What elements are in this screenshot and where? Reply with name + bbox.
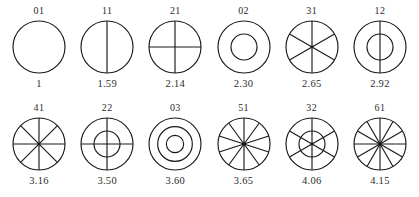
- circle-glyph-32-drawing: [282, 114, 342, 174]
- centre-hub: [310, 143, 313, 146]
- circle-glyph-02-value: 2.30: [234, 78, 254, 91]
- circle-glyph-61: 61 4.15: [349, 102, 411, 188]
- circle-glyph-41: 41 3.16: [8, 102, 70, 188]
- ring-1: [149, 118, 201, 170]
- circle-glyph-11-code: 11: [102, 5, 112, 17]
- circle-glyph-61-drawing: [350, 114, 410, 174]
- circle-glyph-02-wrap: [214, 17, 274, 77]
- circle-glyph-32: 32 4.06: [281, 102, 343, 188]
- circle-glyph-02: 02 2.30: [213, 5, 275, 91]
- circle-glyph-21-value: 2.14: [166, 78, 186, 91]
- circle-glyph-01-code: 01: [34, 5, 45, 17]
- circle-glyph-21: 21 2.14: [144, 5, 206, 91]
- circle-glyph-03: 03 3.60: [144, 102, 206, 188]
- ring-2: [158, 127, 193, 162]
- circle-glyph-11-drawing: [77, 17, 137, 77]
- circle-glyph-41-drawing: [9, 114, 69, 174]
- circle-glyph-22-code: 22: [102, 102, 113, 114]
- circle-glyph-32-value: 4.06: [302, 175, 322, 188]
- circle-glyph-02-code: 02: [238, 5, 249, 17]
- circle-glyph-03-drawing: [145, 114, 205, 174]
- circle-glyph-11-value: 1.59: [97, 78, 117, 91]
- circle-glyph-22-drawing: [77, 114, 137, 174]
- glyph-row-bottom: 41 3.16 22 3.50 03 3.60 51 3.65 32 4.06 …: [0, 98, 419, 196]
- centre-hub: [378, 142, 382, 146]
- circle-glyph-02-drawing: [214, 17, 274, 77]
- ring-1: [218, 21, 270, 73]
- circle-glyph-22-value: 3.50: [97, 175, 117, 188]
- circle-glyph-12-wrap: [350, 17, 410, 77]
- circle-glyph-01: 01 1: [8, 5, 70, 91]
- circle-glyph-51-code: 51: [238, 102, 249, 114]
- circle-complexity-figure: 01 1 11 1.59 21 2.14 02 2.30 31 2.65 12 …: [0, 0, 419, 197]
- circle-glyph-61-value: 4.15: [370, 175, 390, 188]
- centre-hub: [242, 142, 246, 146]
- circle-glyph-61-wrap: [350, 114, 410, 174]
- centre-hub: [38, 143, 41, 146]
- circle-glyph-03-wrap: [145, 114, 205, 174]
- circle-glyph-21-code: 21: [170, 5, 181, 17]
- circle-glyph-32-wrap: [282, 114, 342, 174]
- circle-glyph-01-wrap: [9, 17, 69, 77]
- circle-glyph-51-value: 3.65: [234, 175, 254, 188]
- circle-glyph-21-wrap: [145, 17, 205, 77]
- circle-glyph-03-value: 3.60: [166, 175, 186, 188]
- circle-glyph-31-wrap: [282, 17, 342, 77]
- circle-glyph-03-code: 03: [170, 102, 181, 114]
- circle-glyph-22: 22 3.50: [76, 102, 138, 188]
- circle-glyph-21-drawing: [145, 17, 205, 77]
- circle-glyph-01-drawing: [9, 17, 69, 77]
- ring-3: [167, 135, 184, 152]
- glyph-row-top: 01 1 11 1.59 21 2.14 02 2.30 31 2.65 12 …: [0, 0, 419, 98]
- circle-glyph-11: 11 1.59: [76, 5, 138, 91]
- circle-glyph-01-value: 1: [36, 78, 42, 91]
- circle-glyph-31-code: 31: [306, 5, 317, 17]
- circle-glyph-51-wrap: [214, 114, 274, 174]
- centre-hub: [310, 46, 313, 49]
- circle-glyph-41-code: 41: [34, 102, 45, 114]
- circle-glyph-12-drawing: [350, 17, 410, 77]
- circle-glyph-22-wrap: [77, 114, 137, 174]
- circle-glyph-12-value: 2.92: [370, 78, 390, 91]
- ring-1: [13, 21, 65, 73]
- circle-glyph-61-code: 61: [375, 102, 386, 114]
- circle-glyph-11-wrap: [77, 17, 137, 77]
- circle-glyph-31: 31 2.65: [281, 5, 343, 91]
- circle-glyph-32-code: 32: [306, 102, 317, 114]
- circle-glyph-12: 12 2.92: [349, 5, 411, 91]
- circle-glyph-41-value: 3.16: [29, 175, 49, 188]
- circle-glyph-12-code: 12: [375, 5, 386, 17]
- ring-2: [231, 34, 257, 60]
- circle-glyph-31-drawing: [282, 17, 342, 77]
- circle-glyph-41-wrap: [9, 114, 69, 174]
- circle-glyph-31-value: 2.65: [302, 78, 322, 91]
- circle-glyph-51: 51 3.65: [213, 102, 275, 188]
- circle-glyph-51-drawing: [214, 114, 274, 174]
